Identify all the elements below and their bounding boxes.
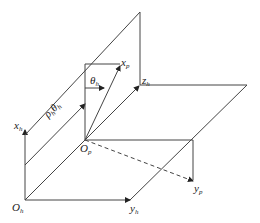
coordinate-frames-diagram: xh Oh yh Op xp zh yp θh ρhθh: [0, 0, 260, 223]
o-h-label: Oh: [12, 202, 23, 215]
x-p-label: xp: [121, 57, 129, 70]
yp-arrow: [85, 140, 193, 181]
x-h-label: xh: [14, 120, 22, 133]
y-p-label: yp: [194, 183, 202, 196]
z-h-label: zh: [142, 75, 150, 88]
o-p-label: Op: [80, 143, 91, 156]
y-h-label: yh: [130, 203, 138, 216]
oh-op-diagonal: [25, 140, 85, 200]
diagram-lines: [0, 0, 260, 223]
plane-top-edge: [25, 12, 140, 135]
hplane-right-edge: [130, 85, 247, 200]
theta-h-label: θh: [90, 75, 99, 88]
zh-arrow: [85, 86, 139, 140]
